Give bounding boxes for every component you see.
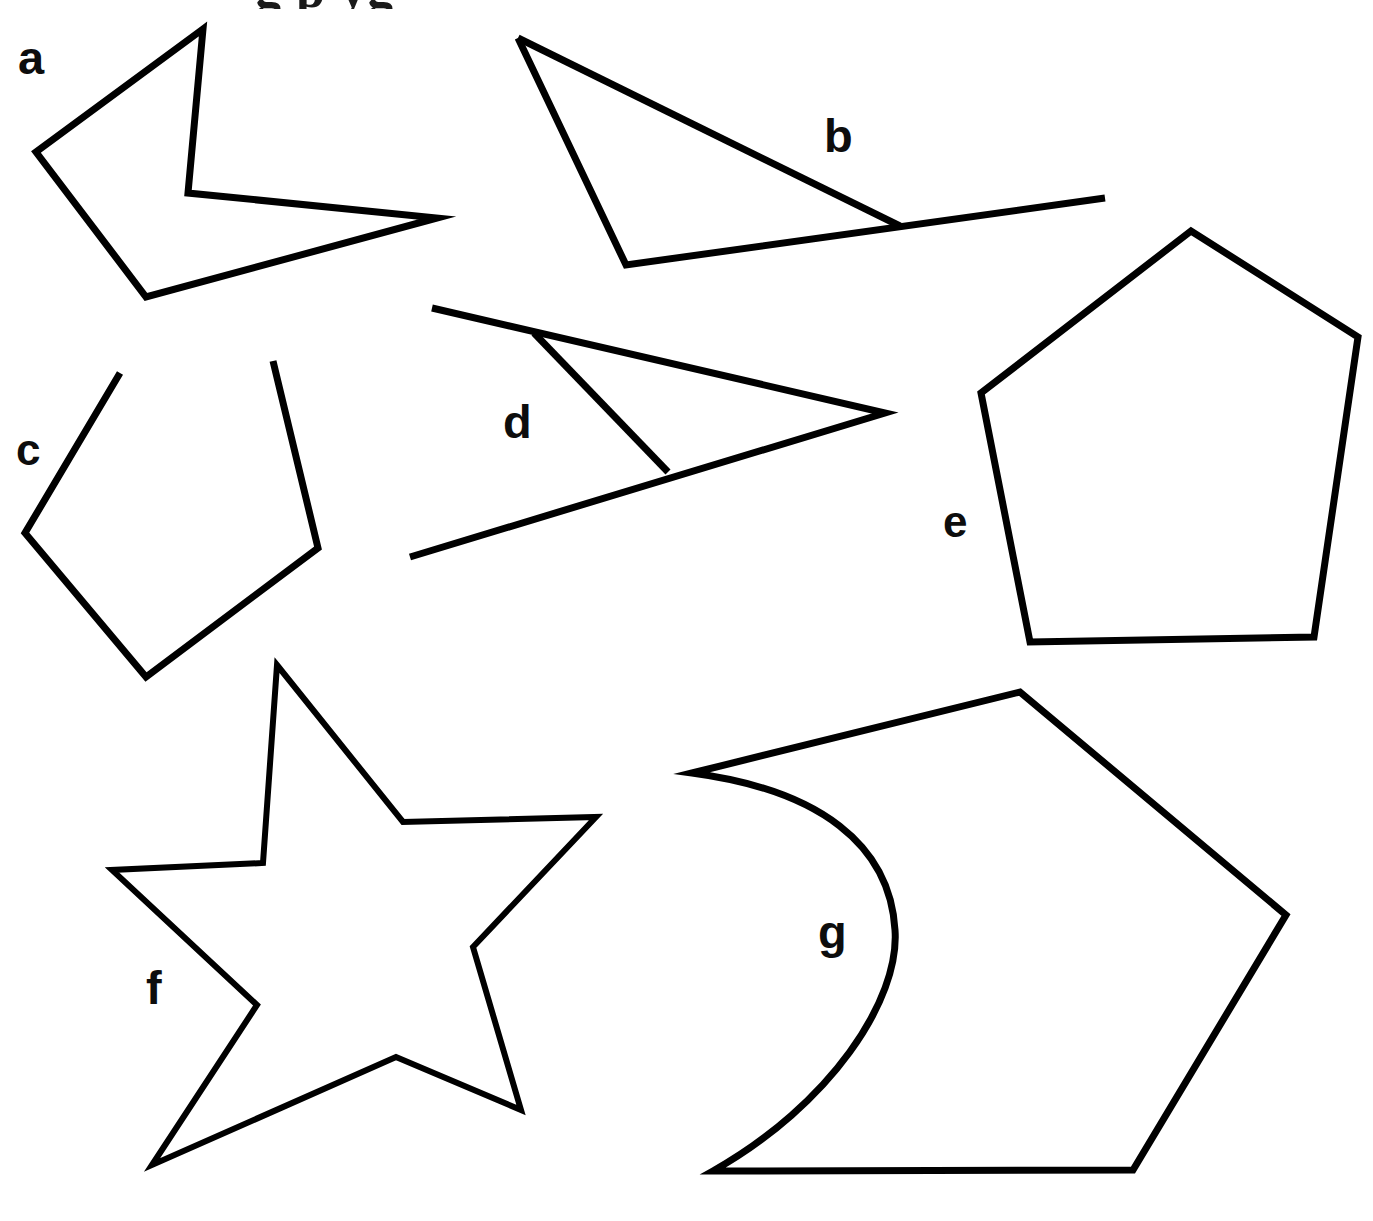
shape-f-star-polygon bbox=[112, 665, 596, 1165]
shape-c-polyline bbox=[25, 361, 318, 677]
shape-label-a: a bbox=[18, 34, 44, 81]
figure-canvas: g p yg a b c d e f g bbox=[0, 0, 1373, 1221]
shape-label-b: b bbox=[824, 112, 853, 159]
shapes-drawing bbox=[0, 0, 1373, 1221]
shape-d-crossbar bbox=[534, 333, 668, 472]
shape-b-polyline bbox=[518, 38, 1105, 265]
shape-d-polyline bbox=[410, 308, 885, 557]
shape-g-curved-path bbox=[692, 692, 1286, 1171]
shape-e-polygon bbox=[981, 231, 1358, 642]
shape-a-polygon bbox=[36, 29, 437, 297]
shape-label-f: f bbox=[146, 964, 162, 1011]
shape-label-d: d bbox=[503, 398, 532, 445]
shape-label-e: e bbox=[943, 500, 967, 544]
shape-label-c: c bbox=[16, 428, 40, 472]
shape-label-g: g bbox=[818, 908, 847, 955]
